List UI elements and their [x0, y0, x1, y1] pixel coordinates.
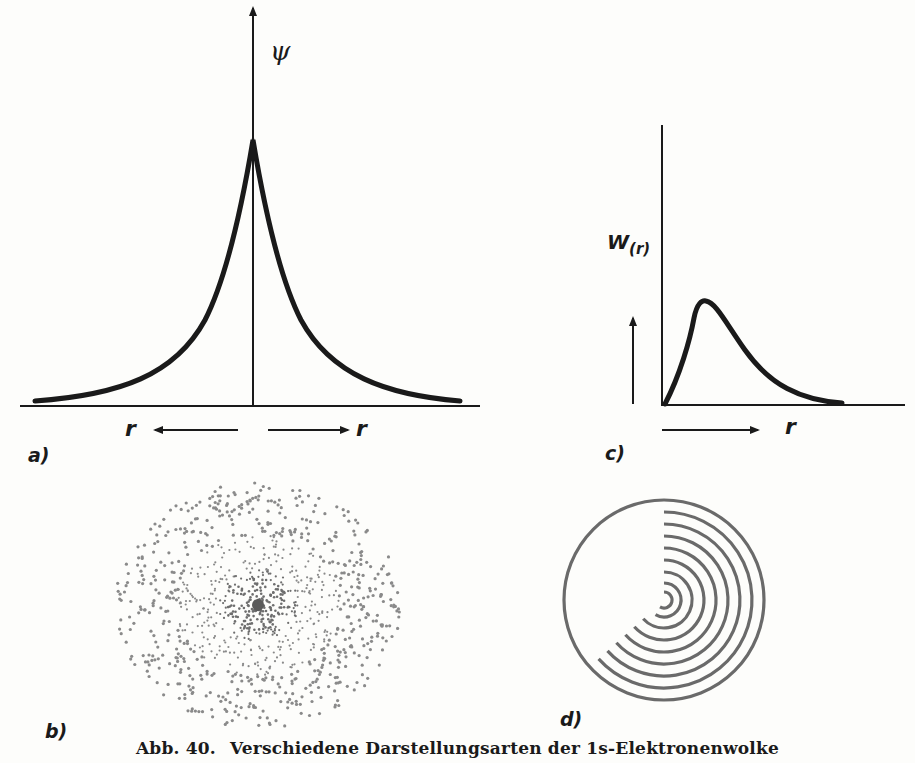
panel-c-y-axis-subscript: (r) — [629, 240, 650, 258]
panel-a-x-axis-label-right: r — [356, 416, 367, 441]
panel-c-x-axis-label: r — [785, 414, 796, 439]
panel-d-shell-diagram — [564, 500, 764, 700]
panel-d-quarter-arcs — [599, 512, 752, 688]
panel-a-psi-curve — [35, 140, 460, 401]
panel-d-outer-circle — [564, 500, 764, 700]
panel-c-y-axis-label: W(r) — [607, 230, 650, 258]
panel-d-label: d) — [560, 708, 582, 730]
figure-number: Abb. 40. — [136, 738, 216, 758]
figure-caption-text: Verschiedene Darstellungsarten der 1s-El… — [230, 738, 779, 758]
panel-a-wavefunction-plot — [20, 8, 480, 430]
panel-c-radial-probability-plot — [633, 125, 905, 430]
figure-caption: Abb. 40.Verschiedene Darstellungsarten d… — [0, 738, 915, 758]
panel-a-y-axis-label: ψ — [270, 36, 290, 66]
figure-canvas — [0, 0, 915, 763]
panel-a-label: a) — [28, 444, 50, 466]
panel-c-label: c) — [605, 442, 625, 464]
panel-a-x-axis-label-left: r — [125, 416, 136, 441]
panel-c-w-curve — [665, 301, 842, 404]
panel-b-electron-dot-cloud — [116, 481, 401, 727]
panel-c-y-axis-symbol: W — [607, 230, 629, 254]
